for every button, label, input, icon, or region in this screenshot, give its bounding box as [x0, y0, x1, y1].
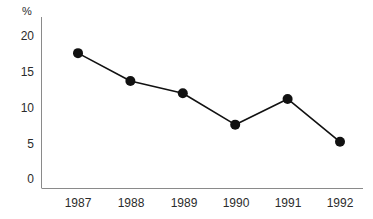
data-point-1991 — [283, 94, 293, 104]
data-series-line — [78, 53, 340, 142]
data-point-1987 — [73, 48, 83, 58]
plot-area — [0, 0, 373, 219]
data-point-1988 — [125, 76, 135, 86]
line-chart: % 20 15 10 5 0 1987 1988 1989 1990 1991 … — [0, 0, 373, 219]
data-point-1990 — [230, 120, 240, 130]
data-markers-group — [73, 48, 345, 147]
data-point-1992 — [335, 137, 345, 147]
data-point-1989 — [178, 88, 188, 98]
